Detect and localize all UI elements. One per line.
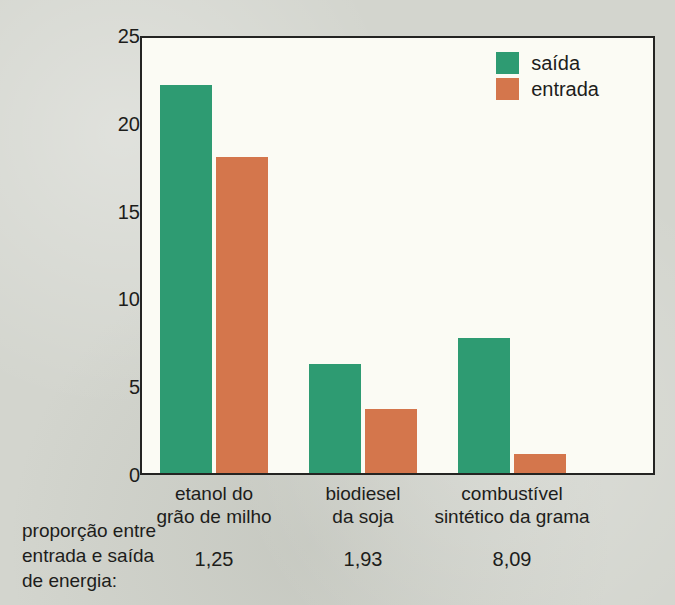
bar-saída-0	[160, 85, 212, 473]
ratio-caption-line: proporção entre	[22, 518, 142, 543]
y-axis-tick-label: 15	[94, 202, 140, 222]
plot-area: saída entrada	[140, 36, 655, 475]
list-item: entrada	[496, 78, 599, 100]
ratio-values-row: 1,251,938,09	[140, 548, 655, 576]
legend-label-saida: saída	[531, 53, 580, 73]
energy-bar-chart-figure: Energia (kcal × 106) por hectare 0510152…	[0, 0, 675, 605]
legend-swatch-entrada-icon	[496, 78, 519, 100]
y-axis-tick-labels: 0510152025	[86, 36, 140, 475]
y-axis-title: Energia (kcal × 106) por hectare	[40, 0, 70, 66]
ratio-value-2: 8,09	[452, 548, 572, 570]
category-label-line: combustível	[412, 482, 612, 505]
bar-saída-1	[309, 364, 361, 473]
bar-group-container	[142, 38, 653, 473]
ratio-caption: proporção entreentrada e saídade energia…	[22, 518, 142, 593]
ratio-caption-line: entrada e saída	[22, 543, 142, 568]
list-item: saída	[496, 52, 599, 74]
legend-swatch-saida-icon	[496, 52, 519, 74]
x-axis-category-labels: etanol dogrão de milhobiodieselda sojaco…	[140, 482, 655, 538]
y-axis-tick-label: 5	[94, 377, 140, 397]
ratio-value-1: 1,93	[303, 548, 423, 570]
ratio-caption-line: de energia:	[22, 568, 142, 593]
bar-entrada-0	[216, 157, 268, 473]
bar-entrada-1	[365, 409, 417, 473]
bar-entrada-2	[514, 454, 566, 473]
category-label-line: sintético da grama	[412, 505, 612, 528]
legend: saída entrada	[496, 52, 599, 100]
category-label-line: etanol do	[129, 482, 299, 505]
legend-label-entrada: entrada	[531, 79, 599, 99]
y-axis-tick-label: 10	[94, 289, 140, 309]
y-axis-tick-label: 20	[94, 114, 140, 134]
y-axis-tick-label: 25	[94, 26, 140, 46]
bar-saída-2	[458, 338, 510, 473]
ratio-value-0: 1,25	[154, 548, 274, 570]
x-axis-category-label-2: combustívelsintético da grama	[412, 482, 612, 528]
